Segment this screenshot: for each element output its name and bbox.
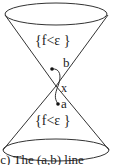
upper-cone-right-edge [56, 15, 108, 86]
point-b-label: b [63, 56, 70, 69]
figure-caption: (c) The (a,b) line [0, 153, 84, 165]
point-a [56, 102, 60, 106]
upper-cone-left-edge [5, 15, 56, 86]
upper-cone-rim [5, 3, 107, 25]
upper-region-label: {f<ε } [35, 34, 70, 48]
point-a-label: a [61, 97, 67, 110]
double-cone-diagram [0, 0, 113, 165]
lower-region-label: {f<ε } [35, 114, 70, 128]
vertex-x-label: x [61, 82, 67, 94]
point-b [50, 67, 54, 71]
